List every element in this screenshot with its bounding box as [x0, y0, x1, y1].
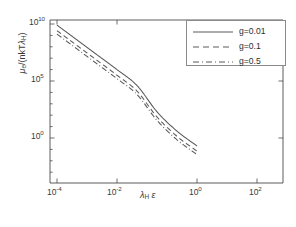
y-ticklabel-1e10: 1010 [29, 17, 45, 27]
legend-sample-solid [193, 31, 233, 33]
x-ticklabel-1e-4: 10-4 [47, 187, 62, 197]
x-ticklabel-1e2: 102 [249, 187, 262, 197]
legend-row-2: g=0.5 [187, 55, 287, 69]
y-axis-label-wrapper: μe/(nkTλH) [15, 0, 29, 111]
legend-label-0: g=0.01 [239, 26, 266, 36]
data-curves [57, 25, 197, 155]
x-ticklabel-1e0: 100 [189, 187, 202, 197]
legend-row-1: g=0.1 [187, 40, 287, 54]
y-ticklabel-1e5: 105 [31, 74, 44, 84]
x-ticklabel-1e-2: 10-2 [107, 187, 122, 197]
legend-sample-dashdot [193, 61, 233, 63]
figure-canvas: 1010 105 100 10-4 10-2 100 102 μe/(nkTλH… [0, 0, 296, 227]
y-ticklabel-1e0: 100 [31, 131, 44, 141]
legend-sample-dashed [193, 46, 233, 48]
legend-row-0: g=0.01 [187, 25, 287, 39]
x-axis-label: λH ε [140, 190, 156, 200]
y-axis-label: μe/(nkTλH) [17, 32, 27, 73]
curve-g-0-1 [57, 31, 197, 152]
legend-label-1: g=0.1 [239, 41, 261, 51]
legend-box: g=0.01 g=0.1 g=0.5 [186, 20, 286, 66]
legend-label-2: g=0.5 [239, 56, 261, 66]
curve-g-0-5 [57, 34, 197, 155]
